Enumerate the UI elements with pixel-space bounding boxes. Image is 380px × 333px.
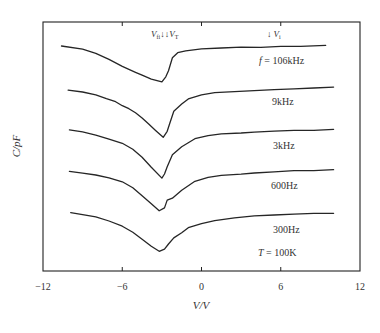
x-tick-label: 0 xyxy=(199,281,204,292)
annotation-vi: ↓Vi xyxy=(267,29,281,40)
series-label-300hz: 300Hz xyxy=(273,224,300,235)
cv-chart: −12−60612 V/V C/pF Vfi↓↓VT ↓Vi f = 106kH… xyxy=(0,0,380,333)
x-tick-label: 6 xyxy=(278,281,283,292)
x-tick-label: −12 xyxy=(35,281,51,292)
temperature-label: T = 100K xyxy=(258,247,297,258)
series-label-106khz: f = 106kHz xyxy=(259,55,305,66)
x-axis-label: V/V xyxy=(193,299,211,311)
series-label-600hz: 600Hz xyxy=(271,180,298,191)
y-axis-label: C/pF xyxy=(10,134,22,157)
annotation-vfi-vt: Vfi↓↓VT xyxy=(151,29,179,40)
x-tick-labels: −12−60612 xyxy=(35,281,365,292)
series-label-9khz: 9kHz xyxy=(272,96,294,107)
plot-frame xyxy=(43,22,360,271)
series-label-3khz: 3kHz xyxy=(273,140,295,151)
x-ticks xyxy=(122,22,281,271)
x-tick-label: 12 xyxy=(355,281,365,292)
x-tick-label: −6 xyxy=(117,281,128,292)
